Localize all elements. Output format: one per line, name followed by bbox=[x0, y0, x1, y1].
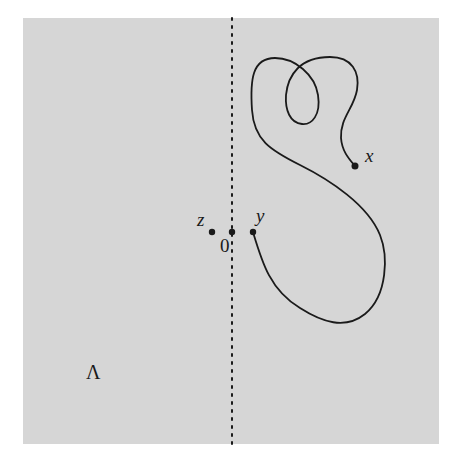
label-x: x bbox=[365, 146, 373, 165]
label-lambda: Λ bbox=[86, 362, 101, 382]
diagram-canvas bbox=[0, 0, 464, 470]
point-origin bbox=[229, 229, 235, 235]
point-z bbox=[209, 229, 215, 235]
path-y-to-x bbox=[251, 57, 384, 323]
label-origin: 0 bbox=[220, 236, 230, 255]
label-z: z bbox=[197, 210, 204, 229]
label-y: y bbox=[256, 206, 264, 225]
point-x bbox=[352, 163, 359, 170]
point-y bbox=[250, 229, 256, 235]
